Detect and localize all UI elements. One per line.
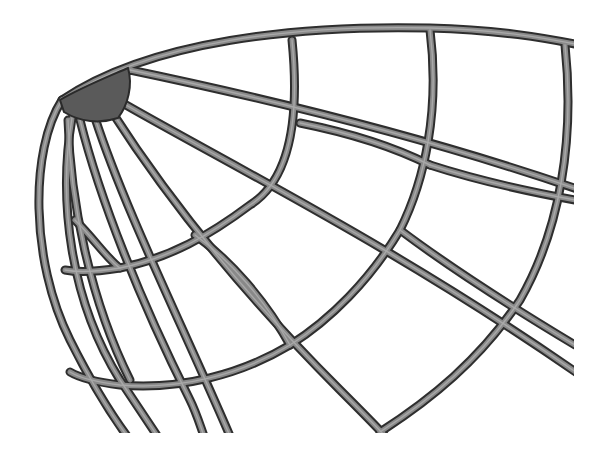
wireframe-dome — [0, 0, 600, 459]
